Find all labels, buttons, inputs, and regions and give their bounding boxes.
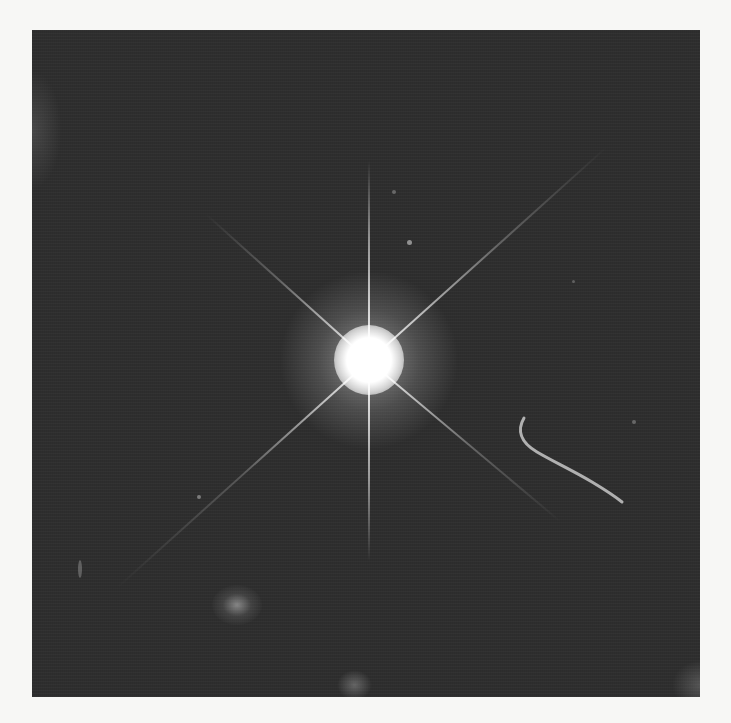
faint-star [407,240,412,245]
faint-galaxy [212,585,262,625]
faint-star [197,495,201,499]
faint-star [392,190,396,194]
faint-smudge-bottom [337,670,372,697]
central-source [334,325,404,395]
faint-star [78,560,82,578]
faint-star [632,420,636,424]
jet-filament [502,410,642,520]
astronomical-photo [32,30,700,697]
faint-star [572,280,575,283]
